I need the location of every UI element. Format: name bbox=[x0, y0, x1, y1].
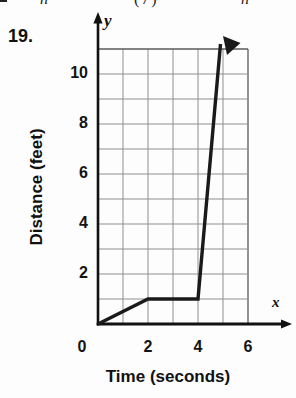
y-axis-symbol: y bbox=[104, 11, 112, 31]
x-tick-label: 6 bbox=[234, 338, 262, 356]
line-graph: Distance (feet) Time (seconds) y x 24681… bbox=[0, 0, 296, 398]
x-tick-label: 0 bbox=[68, 338, 96, 356]
x-axis-arrowhead bbox=[281, 319, 292, 328]
y-tick-label: 8 bbox=[40, 114, 88, 132]
distance-time-line bbox=[98, 44, 221, 324]
x-tick-label: 4 bbox=[184, 338, 212, 356]
y-tick-label: 4 bbox=[40, 214, 88, 232]
y-tick-label: 2 bbox=[40, 264, 88, 282]
x-tick-label: 2 bbox=[134, 338, 162, 356]
worksheet-page: n (7) n 19. Distance (feet) Time (second… bbox=[0, 0, 296, 398]
x-axis-title: Time (seconds) bbox=[68, 367, 268, 387]
y-tick-label: 10 bbox=[40, 64, 88, 82]
y-axis-arrowhead bbox=[93, 12, 102, 24]
line-end-arrowhead bbox=[223, 36, 241, 55]
y-tick-label: 6 bbox=[40, 164, 88, 182]
x-axis-symbol: x bbox=[272, 294, 280, 311]
